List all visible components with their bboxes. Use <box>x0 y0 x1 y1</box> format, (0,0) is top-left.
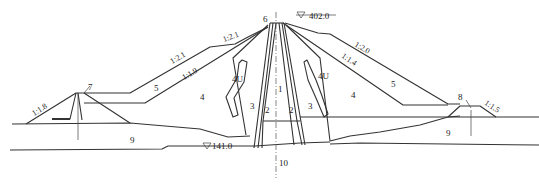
slope-upstream-inner: 1:1.9 <box>181 66 200 82</box>
label-1: 1 <box>278 84 283 94</box>
label-6: 6 <box>263 14 268 24</box>
slope-upstream-middle: 1:2.1 <box>169 50 188 66</box>
label-4u-right: 4U <box>318 71 330 81</box>
dam-drawing: 6 402.0 141.0 7 8 9 9 10 1 2 2 3 3 4 4 4… <box>0 0 539 185</box>
downstream-toe <box>448 106 496 136</box>
dam-cross-section-diagram: 6 402.0 141.0 7 8 9 9 10 1 2 2 3 3 4 4 4… <box>0 0 539 185</box>
label-5-left: 5 <box>154 83 159 93</box>
label-9-right: 9 <box>446 128 451 138</box>
upstream-cofferdam <box>26 93 130 140</box>
label-3-left: 3 <box>250 101 255 111</box>
slope-downstream-inner: 1:1.4 <box>340 51 358 68</box>
upstream-shell <box>84 27 268 103</box>
downstream-shell <box>283 23 460 105</box>
label-crest-elevation: 402.0 <box>309 11 330 21</box>
label-2-left: 2 <box>265 105 270 115</box>
label-2-right: 2 <box>289 105 294 115</box>
label-9-left: 9 <box>130 135 135 145</box>
slope-downstream-toe: 1:1.5 <box>483 98 501 115</box>
label-foundation-elevation: 141.0 <box>212 141 233 151</box>
label-4-right: 4 <box>351 90 356 100</box>
label-7: 7 <box>88 82 93 92</box>
label-4u-left: 4U <box>232 74 244 84</box>
label-3-right: 3 <box>308 101 313 111</box>
leader-8 <box>466 100 471 108</box>
label-8: 8 <box>458 92 463 102</box>
label-4-left: 4 <box>200 92 205 102</box>
label-5-right: 5 <box>391 79 396 89</box>
slope-upstream-upper: 1:2.1 <box>222 30 240 44</box>
label-10: 10 <box>279 158 289 168</box>
